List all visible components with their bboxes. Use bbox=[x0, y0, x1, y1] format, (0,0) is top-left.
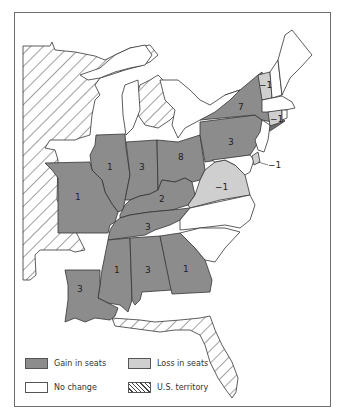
legend-no-change-label: No change bbox=[54, 383, 97, 392]
label-la: 3 bbox=[77, 284, 83, 294]
legend-loss: Loss in seats bbox=[128, 358, 208, 369]
label-tn: 3 bbox=[145, 222, 151, 232]
legend-gain-swatch bbox=[25, 358, 48, 369]
legend-gain-label: Gain in seats bbox=[54, 359, 106, 368]
label-ms: 1 bbox=[114, 265, 120, 275]
label-vt: −1 bbox=[259, 80, 272, 90]
label-ky: 2 bbox=[159, 194, 165, 204]
legend-no-change: No change bbox=[25, 382, 97, 393]
label-al: 3 bbox=[145, 265, 151, 275]
label-il: 1 bbox=[107, 162, 113, 172]
legend-gain: Gain in seats bbox=[25, 358, 106, 369]
label-ny: 7 bbox=[238, 102, 244, 112]
legend-territory-label: U.S. territory bbox=[157, 383, 208, 392]
label-in: 3 bbox=[139, 162, 145, 172]
lake-michigan bbox=[122, 80, 140, 135]
legend-territory-swatch bbox=[128, 382, 151, 393]
label-de: −1 bbox=[268, 160, 281, 170]
legend-loss-swatch bbox=[128, 358, 151, 369]
label-mo: 1 bbox=[75, 192, 81, 202]
legend-loss-label: Loss in seats bbox=[157, 359, 208, 368]
label-ga: 1 bbox=[183, 264, 189, 274]
label-ct: −1 bbox=[270, 114, 283, 124]
state-delaware bbox=[252, 152, 260, 165]
label-oh: 8 bbox=[178, 152, 184, 162]
legend-no-change-swatch bbox=[25, 382, 48, 393]
label-va: −1 bbox=[215, 182, 228, 192]
legend-territory: U.S. territory bbox=[128, 382, 208, 393]
reapportionment-map: 7 3 8 3 1 1 2 3 1 3 1 3 −1 −1 −1 −1 bbox=[0, 0, 344, 418]
state-maine bbox=[278, 30, 312, 95]
label-pa: 3 bbox=[228, 137, 234, 147]
